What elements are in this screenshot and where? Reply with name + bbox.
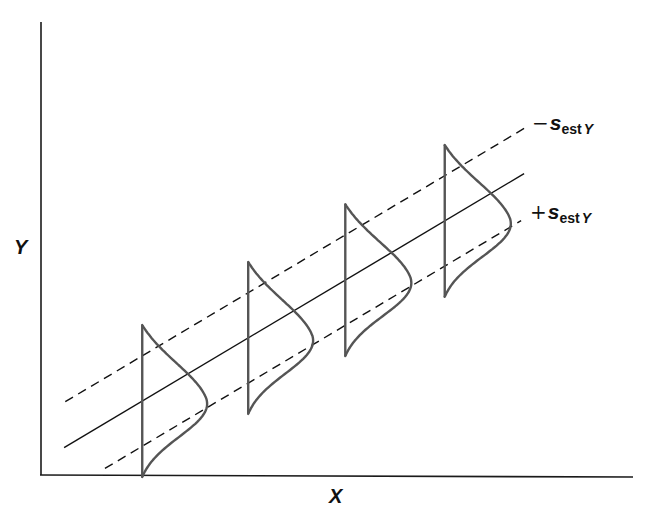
x-axis-label: X	[328, 485, 344, 507]
est-subscript: est	[561, 121, 582, 137]
x-axis	[40, 475, 633, 477]
minus-s-est-y-label: −sestY	[532, 111, 595, 137]
y-subscript: Y	[584, 121, 595, 137]
distribution-curve-3	[345, 204, 411, 356]
plus-s-est-y-label: +sestY	[530, 200, 593, 226]
distribution-curve-2	[248, 262, 313, 414]
y-axis-label: Y	[14, 236, 29, 258]
y-subscript: Y	[582, 210, 593, 226]
distribution-curve-1	[142, 325, 207, 477]
plus-sign: +	[530, 200, 547, 224]
s-symbol: s	[550, 111, 562, 134]
est-subscript: est	[559, 210, 580, 226]
distribution-curve-4	[445, 145, 511, 297]
distributions-layer	[142, 145, 511, 477]
minus-sign: −	[532, 111, 549, 135]
regression-diagram: Y X −sestY +sestY	[0, 0, 655, 526]
lines-layer	[64, 128, 525, 469]
minus-s-est-y-line	[65, 128, 525, 402]
s-symbol: s	[548, 200, 560, 223]
